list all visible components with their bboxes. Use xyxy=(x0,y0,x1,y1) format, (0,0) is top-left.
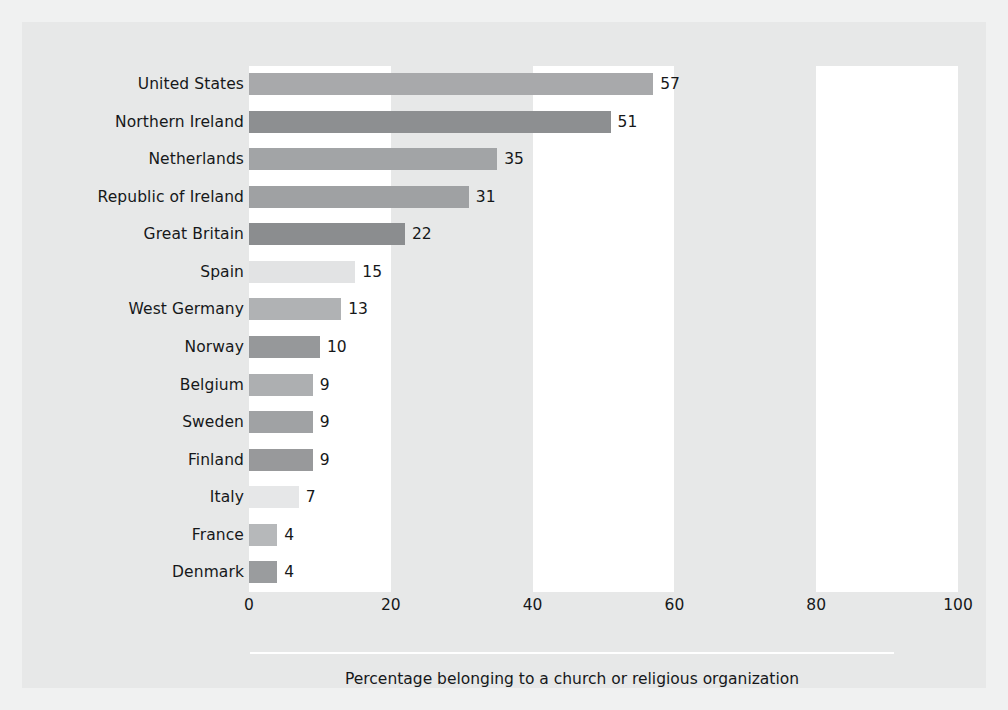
bar-row: West Germany13 xyxy=(249,291,958,329)
x-tick-label: 60 xyxy=(665,596,685,614)
figure-panel: United States57Northern Ireland51Netherl… xyxy=(22,22,986,688)
bar xyxy=(249,186,469,208)
bar-row: Denmark4 xyxy=(249,554,958,592)
bar-row: Northern Ireland51 xyxy=(249,104,958,142)
bar xyxy=(249,336,320,358)
bar-value-label: 15 xyxy=(362,261,382,283)
bar-row: Italy7 xyxy=(249,479,958,517)
bar-value-label: 4 xyxy=(284,561,294,583)
bar xyxy=(249,486,299,508)
category-label: Finland xyxy=(24,449,244,471)
category-label: Norway xyxy=(24,336,244,358)
bar xyxy=(249,73,653,95)
bar xyxy=(249,223,405,245)
bar xyxy=(249,449,313,471)
x-tick-label: 0 xyxy=(244,596,254,614)
bar-value-label: 9 xyxy=(320,411,330,433)
caption-divider xyxy=(250,652,894,654)
bar-row: Belgium9 xyxy=(249,367,958,405)
bar xyxy=(249,261,355,283)
figure: United States57Northern Ireland51Netherl… xyxy=(0,0,1008,710)
x-tick-label: 80 xyxy=(806,596,826,614)
bar-value-label: 4 xyxy=(284,524,294,546)
bar-row: Great Britain22 xyxy=(249,216,958,254)
bar xyxy=(249,111,611,133)
bar-value-label: 10 xyxy=(327,336,347,358)
category-label: Republic of Ireland xyxy=(24,186,244,208)
category-label: Netherlands xyxy=(24,148,244,170)
x-axis-caption: Percentage belonging to a church or reli… xyxy=(250,670,894,688)
bar-value-label: 35 xyxy=(504,148,524,170)
x-tick-label: 20 xyxy=(381,596,401,614)
bar-row: Spain15 xyxy=(249,254,958,292)
bar-row: Republic of Ireland31 xyxy=(249,179,958,217)
category-label: France xyxy=(24,524,244,546)
bar-row: Netherlands35 xyxy=(249,141,958,179)
category-label: Denmark xyxy=(24,561,244,583)
bar-value-label: 7 xyxy=(306,486,316,508)
bar-row: United States57 xyxy=(249,66,958,104)
bar-rows: United States57Northern Ireland51Netherl… xyxy=(249,66,958,592)
bar-row: Finland9 xyxy=(249,442,958,480)
bar xyxy=(249,298,341,320)
x-tick-label: 40 xyxy=(523,596,543,614)
bar-row: France4 xyxy=(249,517,958,555)
bar xyxy=(249,374,313,396)
bar-value-label: 57 xyxy=(660,73,680,95)
x-axis: 020406080100 xyxy=(249,596,958,622)
bar xyxy=(249,524,277,546)
category-label: Sweden xyxy=(24,411,244,433)
bar-row: Norway10 xyxy=(249,329,958,367)
category-label: West Germany xyxy=(24,298,244,320)
bar-value-label: 22 xyxy=(412,223,432,245)
bar-value-label: 9 xyxy=(320,449,330,471)
category-label: Italy xyxy=(24,486,244,508)
category-label: Spain xyxy=(24,261,244,283)
bar xyxy=(249,148,497,170)
bar-value-label: 31 xyxy=(476,186,496,208)
bar xyxy=(249,411,313,433)
category-label: Belgium xyxy=(24,374,244,396)
bar-value-label: 51 xyxy=(618,111,638,133)
plot-area: United States57Northern Ireland51Netherl… xyxy=(249,66,958,592)
bar-value-label: 9 xyxy=(320,374,330,396)
category-label: Great Britain xyxy=(24,223,244,245)
bar-row: Sweden9 xyxy=(249,404,958,442)
category-label: United States xyxy=(24,73,244,95)
x-tick-label: 100 xyxy=(943,596,973,614)
category-label: Northern Ireland xyxy=(24,111,244,133)
bar xyxy=(249,561,277,583)
bar-value-label: 13 xyxy=(348,298,368,320)
